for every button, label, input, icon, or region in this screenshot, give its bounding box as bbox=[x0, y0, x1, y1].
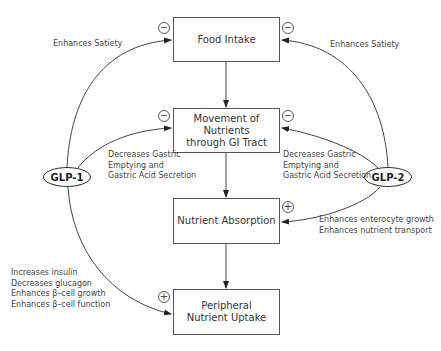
movement-of-nutrients-box: Movement of Nutrients through GI Tract bbox=[173, 108, 280, 153]
plus-glyph: + bbox=[284, 202, 292, 212]
glp2-absorption-label: Enhances enterocyte growth Enhances nutr… bbox=[319, 215, 434, 236]
movement-label-line1: Movement of Nutrients bbox=[174, 113, 279, 137]
plus-glyph: + bbox=[160, 292, 168, 302]
nutrient-absorption-box: Nutrient Absorption bbox=[173, 198, 280, 244]
nutrient-absorption-label: Nutrient Absorption bbox=[177, 215, 275, 227]
minus-glyph: − bbox=[160, 23, 168, 33]
minus-glyph: − bbox=[284, 111, 292, 121]
glp2-label: GLP-2 bbox=[372, 172, 405, 183]
minus-sign-icon: − bbox=[158, 22, 170, 34]
glp2-satiety-label: Enhances Satiety bbox=[330, 40, 399, 51]
glp2-gastric-label: Decreases Gastric Emptying and Gastric A… bbox=[283, 150, 371, 182]
food-intake-box: Food Intake bbox=[173, 17, 280, 62]
glp1-node: GLP-1 bbox=[43, 167, 91, 187]
plus-sign-icon: + bbox=[282, 201, 294, 213]
food-intake-label: Food Intake bbox=[197, 34, 255, 46]
movement-label-line2: through GI Tract bbox=[186, 137, 267, 149]
glp1-satiety-label: Enhances Satiety bbox=[53, 39, 122, 50]
minus-glyph: − bbox=[284, 23, 292, 33]
minus-sign-icon: − bbox=[282, 110, 294, 122]
peripheral-label-line2: Nutrient Uptake bbox=[187, 312, 267, 324]
glp1-gastric-label: Decreases Gastric Emptying and Gastric A… bbox=[108, 150, 196, 182]
minus-glyph: − bbox=[160, 111, 168, 121]
peripheral-label-line1: Peripheral bbox=[201, 300, 252, 312]
minus-sign-icon: − bbox=[158, 110, 170, 122]
minus-sign-icon: − bbox=[282, 22, 294, 34]
peripheral-nutrient-uptake-box: Peripheral Nutrient Uptake bbox=[173, 289, 280, 335]
glp1-peripheral-label: Increases insulin Decreases glucagon Enh… bbox=[11, 268, 110, 310]
glp1-label: GLP-1 bbox=[51, 172, 84, 183]
plus-sign-icon: + bbox=[158, 291, 170, 303]
